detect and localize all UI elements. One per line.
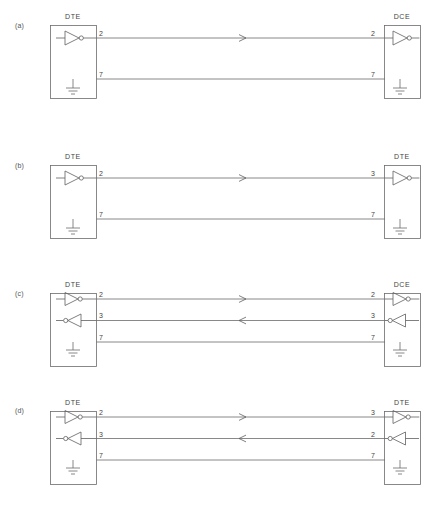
panel-d-left-gate-pin2: [56, 411, 96, 424]
panel-d-left-box: [51, 412, 97, 485]
panel-a-left-ground-icon: [66, 79, 80, 94]
panel-d-right-ground-icon: [393, 460, 407, 474]
panel-c-right-gate-pin2: [385, 293, 419, 306]
panel-c-graphics: [0, 272, 435, 390]
panel-a-left-gate-pin2: [56, 31, 96, 45]
diagram-sheet: (a) DTE DCE 2 7 2 7: [0, 0, 435, 508]
panel-d-right-gate-pin2: [385, 432, 419, 445]
panel-b-left-gate-pin2: [56, 171, 96, 185]
panel-b-left-ground-icon: [66, 219, 80, 234]
panel-c-right-box: [385, 294, 421, 367]
panel-b-left-box: [51, 166, 97, 239]
panel-c-right-ground-icon: [393, 342, 407, 356]
panel-a-right-gate-pin2: [385, 31, 419, 45]
panel-a: (a) DTE DCE 2 7 2 7: [0, 0, 435, 125]
panel-d-left-gate-pin3: [56, 432, 97, 445]
panel-b-right-box: [385, 166, 421, 239]
panel-c: (c) DTE DCE 2 3 7 2 3 7: [0, 272, 435, 390]
panel-c-left-ground-icon: [66, 342, 80, 356]
panel-c-left-gate-pin3: [56, 314, 97, 327]
panel-d-left-ground-icon: [66, 460, 80, 474]
panel-b-right-gate-pin3: [385, 171, 419, 185]
panel-a-right-box: [385, 26, 421, 99]
panel-b-right-ground-icon: [393, 219, 407, 234]
panel-d-graphics: [0, 398, 435, 508]
panel-a-right-ground-icon: [393, 79, 407, 94]
panel-b-graphics: [0, 140, 435, 265]
panel-c-right-gate-pin3: [385, 314, 419, 327]
panel-a-left-box: [51, 26, 97, 99]
panel-a-graphics: [0, 0, 435, 125]
panel-d-right-gate-pin3: [385, 411, 419, 424]
panel-d-right-box: [385, 412, 421, 485]
panel-c-left-gate-pin2: [56, 293, 96, 306]
panel-c-left-box: [51, 294, 97, 367]
panel-d: (d) DTE DTE 2 3 7 3 2 7: [0, 398, 435, 508]
panel-b: (b) DTE DTE 2 7 3 7: [0, 140, 435, 265]
